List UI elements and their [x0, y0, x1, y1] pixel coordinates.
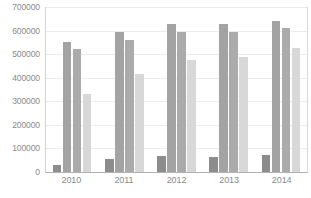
bar-series-2-2011 — [115, 32, 124, 172]
x-axis-tick-label: 2014 — [255, 176, 308, 185]
bar-series-3-2010 — [73, 49, 82, 172]
bar-group-2014 — [255, 7, 307, 172]
bar-series-4-2010 — [83, 94, 92, 172]
bar-series-1-2012 — [157, 156, 166, 172]
y-axis-tick-label: 400000 — [0, 73, 40, 82]
bar-series-2-2014 — [272, 21, 281, 172]
bar-series-4-2014 — [292, 48, 301, 172]
bar-series-4-2011 — [135, 74, 144, 172]
y-axis-tick-label: 100000 — [0, 144, 40, 153]
x-axis-tick-label: 2013 — [203, 176, 256, 185]
bar-group-2012 — [150, 7, 202, 172]
bar-series-3-2011 — [125, 40, 134, 172]
bar-series-3-2014 — [282, 28, 291, 172]
bar-series-4-2012 — [187, 60, 196, 172]
bar-series-2-2012 — [167, 24, 176, 173]
bar-group-2011 — [98, 7, 150, 172]
y-axis-tick-label: 600000 — [0, 26, 40, 35]
bar-group-2010 — [46, 7, 98, 172]
bar-series-1-2010 — [53, 165, 62, 172]
y-axis-tick-label: 700000 — [0, 3, 40, 12]
bar-series-3-2013 — [229, 32, 238, 172]
x-axis-tick-label: 2010 — [45, 176, 98, 185]
bar-series-2-2010 — [63, 42, 72, 172]
y-axis-tick-label: 200000 — [0, 121, 40, 130]
bar-chart: 0100000200000300000400000500000600000700… — [0, 0, 311, 198]
bar-series-1-2013 — [209, 157, 218, 172]
x-axis-tick-label: 2011 — [98, 176, 151, 185]
bar-series-1-2014 — [262, 155, 271, 172]
y-axis-tick-label: 0 — [0, 168, 40, 177]
y-axis-tick-label: 500000 — [0, 50, 40, 59]
x-axis-tick-label: 2012 — [150, 176, 203, 185]
plot-area — [45, 7, 308, 173]
bar-groups — [46, 7, 307, 172]
bar-group-2013 — [203, 7, 255, 172]
bar-series-3-2012 — [177, 32, 186, 172]
bar-series-2-2013 — [219, 24, 228, 172]
y-axis-tick-label: 300000 — [0, 97, 40, 106]
bar-series-4-2013 — [239, 57, 248, 173]
x-axis-labels: 20102011201220132014 — [45, 176, 308, 185]
bar-series-1-2011 — [105, 159, 114, 172]
